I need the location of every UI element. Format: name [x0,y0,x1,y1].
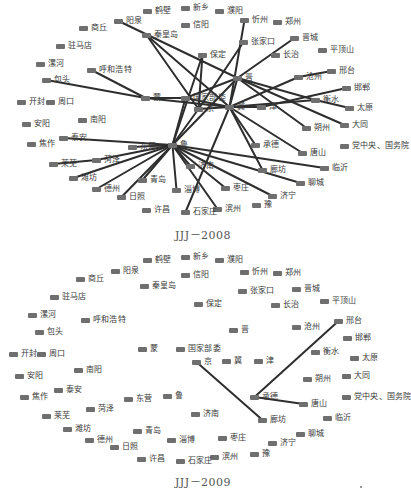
node-marker-icon [167,438,176,443]
node-开封: 开封 [9,349,37,359]
node-信阳: 信阳 [181,20,209,30]
node-marker-icon [298,151,307,156]
node-邢台: 邢台 [334,316,362,326]
node-label: 平顶山 [330,45,355,55]
node-marker-icon [81,318,90,323]
node-marker-icon [92,187,101,192]
node-label: 沧州 [304,322,320,332]
node-label: 太原 [357,103,373,113]
node-济宁: 济宁 [268,191,296,201]
node-衡水: 衡水 [311,95,339,105]
node-marker-icon [240,18,249,23]
node-label: 鹤壁 [155,6,171,16]
node-鲁: 鲁 [168,140,188,150]
node-label: 聊城 [308,178,324,188]
node-marker-icon [181,6,190,11]
node-秦皇岛: 秦皇岛 [142,30,179,40]
node-青岛: 青岛 [133,426,161,436]
node-label: 晋 [241,325,249,335]
node-党中央、国务院: 党中央、国务院 [340,141,409,151]
node-label: 濮阳 [227,255,243,265]
node-label: 许昌 [149,454,165,464]
node-marker-icon [225,105,234,110]
node-漯河: 漯河 [28,310,56,320]
node-label: 潍坊 [81,173,97,183]
node-label: 京 [204,357,212,367]
node-label: 莱芜 [61,159,77,169]
node-label: 廊坊 [270,415,286,425]
node-marker-icon [299,402,308,407]
node-津: 津 [257,102,277,112]
node-泰安: 泰安 [59,133,87,143]
node-marker-icon [254,359,263,364]
node-marker-icon [133,429,142,434]
node-包头: 包头 [42,75,70,85]
node-莱芜: 莱芜 [42,411,70,421]
node-label: 冀 [234,356,242,366]
node-豫: 豫 [250,449,270,459]
node-label: 津 [269,102,277,112]
node-marker-icon [86,407,95,412]
node-枣庄: 枣庄 [218,433,246,443]
node-石家庄: 石家庄 [181,207,218,217]
node-承德: 承德 [250,392,278,402]
stray-mark [360,486,362,488]
node-marker-icon [340,123,349,128]
node-label: 淄博 [184,185,200,195]
node-marker-icon [238,289,247,294]
node-label: 郑州 [285,17,301,27]
node-阳泉: 阳泉 [111,266,139,276]
node-label: 邢台 [339,66,355,76]
node-开封: 开封 [17,97,45,107]
node-marker-icon [294,75,303,80]
node-滨州: 滨州 [210,452,238,462]
node-廊坊: 廊坊 [258,415,286,425]
node-marker-icon [138,347,147,352]
node-label: 东营 [140,142,156,152]
node-marker-icon [69,176,78,181]
node-label: 党中央、国务院 [354,392,411,402]
node-济南: 济南 [191,409,219,419]
node-label: 石家庄 [188,456,213,466]
node-冀: 冀 [222,356,242,366]
node-marker-icon [239,40,248,45]
node-label: 枣庄 [233,183,249,193]
node-label: 蒙 [153,93,161,103]
node-呼和浩特: 呼和浩特 [81,315,126,325]
node-唐山: 唐山 [299,399,327,409]
node-marker-icon [49,162,58,167]
node-marker-icon [342,86,351,91]
node-marker-icon [143,258,152,263]
node-marker-icon [292,325,301,330]
node-marker-icon [311,98,320,103]
node-廊坊: 廊坊 [258,165,286,175]
node-安阳: 安阳 [15,371,43,381]
node-长治: 长治 [271,300,299,310]
node-鹤壁: 鹤壁 [143,255,171,265]
node-marker-icon [296,432,305,437]
node-label: 邯郸 [354,83,370,93]
node-泰安: 泰安 [54,385,82,395]
node-新乡: 新乡 [181,252,209,262]
node-豫: 豫 [252,200,272,210]
node-label: 忻州 [252,15,268,25]
node-label: 蒙 [150,344,158,354]
node-label: 日照 [122,442,138,452]
node-label: 鲁 [175,391,183,401]
node-label: 石家庄 [193,207,218,217]
node-marker-icon [17,100,26,105]
node-label: 周口 [58,97,74,107]
node-label: 长治 [283,50,299,60]
node-label: 新乡 [193,252,209,262]
node-南阳: 南阳 [78,115,106,125]
node-label: 晋城 [304,284,320,294]
node-marker-icon [342,395,351,400]
node-label: 廊坊 [270,165,286,175]
node-marker-icon [50,295,59,300]
node-marker-icon [343,336,352,341]
node-聊城: 聊城 [296,178,324,188]
node-label: 焦作 [39,139,55,149]
node-marker-icon [36,62,45,67]
node-marker-icon [250,452,259,457]
node-新乡: 新乡 [181,3,209,13]
